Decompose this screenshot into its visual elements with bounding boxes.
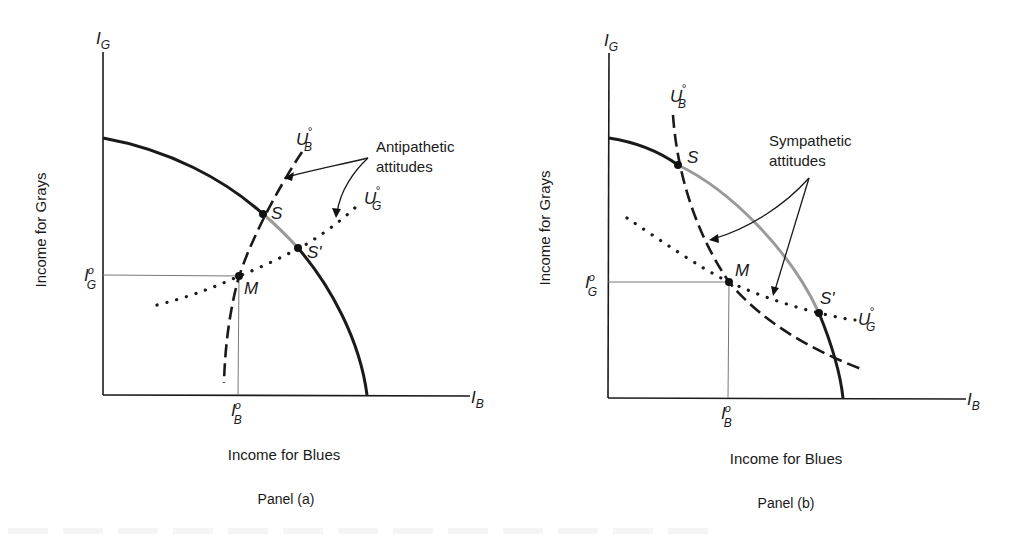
x-axis-label-a: Income for Blues (228, 446, 341, 463)
frontier-upper-b (609, 138, 678, 165)
label-ub-b: U°B (670, 82, 686, 111)
figure-canvas: IG IB S S' M U°B U°G IoG IoB Antipatheti… (0, 0, 1009, 538)
x-axis-symbol-b: IB (967, 390, 980, 413)
tick-ig0-a: IoG (84, 264, 96, 292)
x-axis-label-b: Income for Blues (730, 450, 843, 467)
label-ub-a: U°B (296, 125, 312, 154)
panel-caption-a: Panel (a) (258, 491, 315, 507)
m-guides-a (103, 275, 239, 395)
ub-curve-a (224, 152, 302, 383)
frontier-upper-a (103, 138, 263, 214)
label-ug-a: U°G (364, 184, 381, 213)
tick-ig0-b: IoG (585, 271, 597, 299)
label-s-a: S (271, 204, 283, 223)
cut-off-caption-line (8, 528, 708, 534)
label-ug-b: U°G (858, 305, 875, 334)
point-s-b (674, 161, 682, 169)
arrowhead-ub-b (709, 234, 719, 243)
label-m-b: M (735, 261, 750, 280)
point-s-a (259, 210, 267, 218)
y-axis-label-b: Income for Grays (536, 170, 553, 285)
annotation-line2-b: attitudes (769, 152, 826, 169)
x-axis-b (608, 398, 966, 399)
y-axis-b (608, 53, 609, 398)
annotation-line1-a: Antipathetic (376, 138, 455, 155)
panel-b: IG IB S S' M U°B U°G IoG IoB Sympathetic… (536, 31, 980, 511)
tick-ib0-a: IoB (231, 399, 242, 427)
m-guides-b (608, 282, 729, 398)
label-m-a: M (244, 279, 259, 298)
y-axis-label-a: Income for Grays (32, 172, 49, 287)
x-axis-symbol-a: IB (471, 388, 484, 411)
label-s-prime-b: S' (820, 289, 835, 308)
x-axis-a (103, 395, 470, 396)
y-axis-symbol-b: IG (604, 31, 618, 54)
point-s-prime-b (815, 309, 823, 317)
tick-ib0-b: IoB (721, 402, 732, 430)
annotation-line1-b: Sympathetic (769, 132, 852, 149)
label-s-prime-a: S' (307, 243, 322, 262)
arrowhead-ug-b (771, 286, 779, 296)
point-s-prime-a (294, 244, 302, 252)
point-m-a (235, 272, 243, 280)
annotation-line2-a: attitudes (376, 158, 433, 175)
panel-caption-b: Panel (b) (758, 495, 815, 511)
label-s-b: S (687, 148, 699, 167)
y-axis-symbol-a: IG (96, 29, 110, 52)
arrowhead-ug-a (332, 208, 341, 218)
panel-a: IG IB S S' M U°B U°G IoG IoB Antipatheti… (32, 29, 484, 507)
frontier-lower-a (298, 248, 367, 395)
point-m-b (725, 278, 733, 286)
arrow-to-ub-a (288, 158, 368, 177)
